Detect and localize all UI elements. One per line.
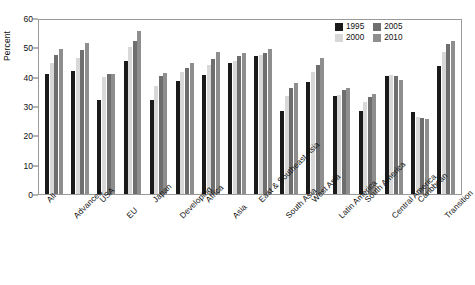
y-tick-mark bbox=[33, 48, 38, 49]
bar-2010 bbox=[320, 58, 324, 194]
bar-group bbox=[250, 20, 276, 194]
y-tick-mark bbox=[33, 107, 38, 108]
bar-1995 bbox=[359, 111, 363, 194]
bar-group bbox=[172, 20, 198, 194]
bar-2005 bbox=[133, 41, 137, 194]
bar-2005 bbox=[80, 50, 84, 194]
y-tick-mark bbox=[33, 77, 38, 78]
bar-group bbox=[302, 20, 328, 194]
bar-2005 bbox=[289, 88, 293, 194]
bar-2010 bbox=[216, 52, 220, 194]
bar-2000 bbox=[180, 72, 184, 194]
bar-1995 bbox=[306, 82, 310, 194]
bar-2010 bbox=[451, 41, 455, 194]
bar-2010 bbox=[137, 31, 141, 194]
bar-1995 bbox=[254, 56, 258, 194]
bar-group bbox=[119, 20, 145, 194]
legend-item-2010: 2010 bbox=[373, 34, 402, 42]
bar-2010 bbox=[190, 63, 194, 194]
legend-label: 2005 bbox=[384, 23, 402, 31]
bar-2005 bbox=[159, 76, 163, 194]
x-tick-label: Asia bbox=[231, 203, 249, 221]
x-tick-label: EU bbox=[125, 206, 139, 220]
bar-group bbox=[41, 20, 67, 194]
bar-group bbox=[67, 20, 93, 194]
bar-2000 bbox=[50, 63, 54, 194]
bar-2005 bbox=[446, 44, 450, 194]
bar-2000 bbox=[102, 77, 106, 194]
bar-2010 bbox=[346, 88, 350, 194]
bar-2005 bbox=[107, 74, 111, 194]
x-axis-labels: AllAdvancedUSAEUJapanDevelopingAfricaAsi… bbox=[38, 196, 462, 284]
legend: 1995200520002010 bbox=[335, 22, 402, 44]
bar-1995 bbox=[228, 63, 232, 194]
legend-item-1995: 1995 bbox=[335, 23, 364, 31]
bar-2000 bbox=[207, 65, 211, 194]
legend-swatch-icon bbox=[335, 34, 343, 42]
y-tick-mark bbox=[33, 136, 38, 137]
bar-2000 bbox=[311, 72, 315, 194]
bar-1995 bbox=[150, 100, 154, 194]
bar-group bbox=[198, 20, 224, 194]
bar-group bbox=[146, 20, 172, 194]
bar-1995 bbox=[411, 112, 415, 194]
bar-2010 bbox=[163, 73, 167, 194]
bar-group bbox=[407, 20, 433, 194]
bar-2000 bbox=[154, 86, 158, 194]
legend-label: 2000 bbox=[346, 34, 364, 42]
bar-2010 bbox=[399, 80, 403, 194]
legend-item-2000: 2000 bbox=[335, 34, 364, 42]
legend-label: 2010 bbox=[384, 34, 402, 42]
bar-2010 bbox=[59, 49, 63, 194]
bar-2010 bbox=[294, 83, 298, 194]
bar-2010 bbox=[268, 49, 272, 194]
bar-2005 bbox=[237, 56, 241, 194]
bar-group bbox=[355, 20, 381, 194]
y-tick-mark bbox=[33, 19, 38, 20]
bar-1995 bbox=[45, 74, 49, 194]
legend-swatch-icon bbox=[373, 34, 381, 42]
legend-label: 1995 bbox=[346, 23, 364, 31]
bar-2010 bbox=[85, 43, 89, 194]
bar-2000 bbox=[259, 55, 263, 194]
bar-2005 bbox=[263, 53, 267, 194]
bar-2005 bbox=[211, 59, 215, 194]
bar-group bbox=[93, 20, 119, 194]
y-tick-mark bbox=[33, 165, 38, 166]
bar-2000 bbox=[363, 102, 367, 194]
bar-group bbox=[433, 20, 459, 194]
bar-1995 bbox=[202, 75, 206, 194]
bar-2005 bbox=[185, 68, 189, 194]
bar-2000 bbox=[128, 47, 132, 194]
bar-2005 bbox=[342, 90, 346, 194]
bar-group bbox=[224, 20, 250, 194]
bar-2005 bbox=[316, 65, 320, 194]
bar-1995 bbox=[97, 100, 101, 194]
bar-2005 bbox=[54, 55, 58, 194]
legend-swatch-icon bbox=[373, 23, 381, 31]
bar-2000 bbox=[76, 58, 80, 194]
bar-group bbox=[328, 20, 354, 194]
bar-1995 bbox=[71, 71, 75, 194]
legend-swatch-icon bbox=[335, 23, 343, 31]
bar-1995 bbox=[176, 81, 180, 194]
legend-item-2005: 2005 bbox=[373, 23, 402, 31]
bar-1995 bbox=[124, 61, 128, 194]
bar-2000 bbox=[416, 117, 420, 194]
bar-2010 bbox=[242, 53, 246, 194]
bar-2000 bbox=[233, 61, 237, 194]
bar-2010 bbox=[111, 74, 115, 194]
